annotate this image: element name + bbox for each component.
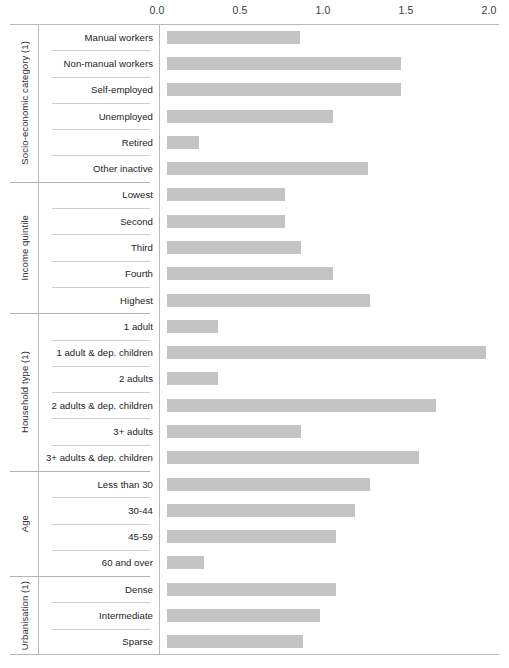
bar bbox=[167, 215, 285, 228]
category-label: 45-59 bbox=[39, 524, 159, 550]
row-separator bbox=[52, 497, 150, 498]
bar bbox=[167, 57, 401, 70]
group-axis-label: Socio-economic category (1) bbox=[19, 41, 30, 165]
row-separator bbox=[52, 261, 150, 262]
group-label-gutter: Socio-economic category (1)Income quinti… bbox=[10, 24, 38, 655]
group-axis-label: Household type (1) bbox=[19, 351, 30, 433]
category-label: Non-manual workers bbox=[39, 50, 159, 76]
row-separator bbox=[52, 103, 150, 104]
bar bbox=[167, 478, 370, 491]
bar bbox=[167, 110, 333, 123]
row-separator bbox=[52, 208, 150, 209]
category-label: 3+ adults & dep. children bbox=[39, 445, 159, 471]
category-label: 60 and over bbox=[39, 550, 159, 576]
row-separator bbox=[52, 392, 150, 393]
bar bbox=[167, 136, 199, 149]
row-separator bbox=[52, 445, 150, 446]
bar bbox=[167, 556, 204, 569]
x-axis-tick-label: 2.0 bbox=[481, 4, 496, 16]
row-separator bbox=[52, 629, 150, 630]
bar bbox=[167, 188, 285, 201]
category-label: Fourth bbox=[39, 261, 159, 287]
bar bbox=[167, 162, 368, 175]
bar bbox=[167, 583, 336, 596]
group-axis-label: Age bbox=[19, 515, 30, 532]
group-axis-label: Urbanisation (1) bbox=[19, 581, 30, 650]
bar bbox=[167, 635, 303, 648]
category-label: 3+ adults bbox=[39, 418, 159, 444]
category-label: 1 adult & dep. children bbox=[39, 340, 159, 366]
x-axis-top: 0.00.51.01.52.0 bbox=[0, 0, 509, 24]
category-label: Dense bbox=[39, 576, 159, 602]
row-separator bbox=[52, 155, 150, 156]
category-label: Self-employed bbox=[39, 77, 159, 103]
category-label: 2 adults & dep. children bbox=[39, 392, 159, 418]
group-separator bbox=[10, 471, 150, 472]
row-separator bbox=[52, 366, 150, 367]
category-label: Highest bbox=[39, 287, 159, 313]
bar bbox=[167, 294, 370, 307]
row-separator bbox=[52, 524, 150, 525]
row-separator bbox=[52, 340, 150, 341]
group-2-label-block: Household type (1) bbox=[10, 313, 38, 471]
bar bbox=[167, 241, 301, 254]
category-label: Lowest bbox=[39, 182, 159, 208]
category-label: Retired bbox=[39, 129, 159, 155]
bar bbox=[167, 399, 436, 412]
horizontal-bar-chart: 0.00.51.01.52.0 Socio-economic category … bbox=[0, 0, 509, 668]
row-separator bbox=[52, 50, 150, 51]
bar bbox=[167, 451, 419, 464]
x-axis-tick-label: 1.0 bbox=[315, 4, 330, 16]
category-label: Less than 30 bbox=[39, 471, 159, 497]
bar bbox=[167, 267, 333, 280]
category-label: Manual workers bbox=[39, 24, 159, 50]
bar bbox=[167, 31, 300, 44]
bar bbox=[167, 320, 218, 333]
bar bbox=[167, 346, 486, 359]
x-axis-tick-label: 0.5 bbox=[232, 4, 247, 16]
bar bbox=[167, 530, 336, 543]
group-separator bbox=[10, 576, 150, 577]
row-separator bbox=[52, 602, 150, 603]
bar bbox=[167, 425, 301, 438]
row-separator bbox=[52, 550, 150, 551]
bar bbox=[167, 609, 320, 622]
category-label: Third bbox=[39, 234, 159, 260]
row-separator bbox=[52, 129, 150, 130]
category-label: Intermediate bbox=[39, 602, 159, 628]
row-separator bbox=[52, 287, 150, 288]
group-separator bbox=[10, 313, 150, 314]
category-label: 1 adult bbox=[39, 313, 159, 339]
group-axis-label: Income quintile bbox=[19, 215, 30, 280]
bar bbox=[167, 83, 401, 96]
row-separator bbox=[52, 77, 150, 78]
bar bbox=[167, 372, 218, 385]
x-axis-tick-label: 1.5 bbox=[398, 4, 413, 16]
category-label: Second bbox=[39, 208, 159, 234]
category-label: Sparse bbox=[39, 629, 159, 655]
row-separator bbox=[52, 234, 150, 235]
x-axis-tick-label: 0.0 bbox=[149, 4, 164, 16]
bars-area bbox=[160, 24, 499, 655]
category-label: 2 adults bbox=[39, 366, 159, 392]
group-3-label-block: Age bbox=[10, 471, 38, 576]
category-label: Other inactive bbox=[39, 155, 159, 181]
row-separator bbox=[52, 418, 150, 419]
group-separator bbox=[10, 182, 150, 183]
category-label: Unemployed bbox=[39, 103, 159, 129]
bar bbox=[167, 504, 355, 517]
category-label: 30-44 bbox=[39, 497, 159, 523]
group-4-label-block: Urbanisation (1) bbox=[10, 576, 38, 655]
group-1-label-block: Income quintile bbox=[10, 182, 38, 313]
group-0-label-block: Socio-economic category (1) bbox=[10, 24, 38, 182]
